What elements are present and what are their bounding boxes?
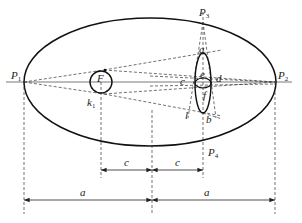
label-point-e: e xyxy=(200,68,205,80)
label-dim-a-left: a xyxy=(80,186,86,198)
label-dim-c-right: c xyxy=(175,156,180,168)
ray-f-mid-top xyxy=(104,70,275,82)
label-p4: P4 xyxy=(207,146,219,160)
focus-circle-tangent-point xyxy=(104,69,107,72)
label-k1: k1 xyxy=(87,96,96,110)
label-p3: P3 xyxy=(198,6,210,20)
label-point-c: c xyxy=(180,75,185,87)
label-p2: P2 xyxy=(277,69,289,83)
ray-c-d xyxy=(150,76,275,82)
ray-f-bottom xyxy=(104,82,275,94)
label-dim-c-left: c xyxy=(124,156,129,168)
label-point-a: a xyxy=(199,43,205,55)
label-point-f: f xyxy=(203,89,208,101)
label-p1: P1 xyxy=(10,69,22,83)
label-point-d: d xyxy=(216,72,222,84)
label-point-l: l xyxy=(185,109,188,121)
label-focus: F xyxy=(96,72,104,84)
label-dim-a-right: a xyxy=(204,186,210,198)
ellipse-diagram: P1 P2 P3 P4 F k1 a c e d f l b c c a a xyxy=(0,0,302,223)
ray-lower xyxy=(150,84,275,86)
label-point-b: b xyxy=(206,113,212,125)
